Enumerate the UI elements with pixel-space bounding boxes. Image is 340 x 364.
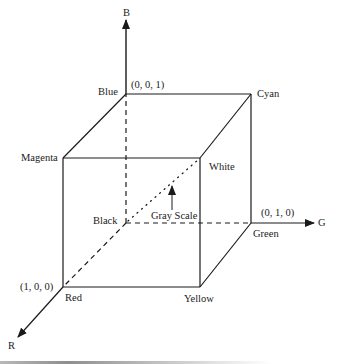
vertex-label-magenta: Magenta (21, 153, 58, 164)
coord-label-red: (1, 0, 0) (20, 282, 53, 293)
vertex-label-cyan: Cyan (257, 89, 279, 100)
vertex-label-yellow: Yellow (184, 294, 214, 305)
b-axis-label: B (123, 8, 130, 19)
coord-label-green: (0, 1, 0) (261, 208, 294, 219)
vertex-label-blue: Blue (98, 87, 118, 98)
coord-label-blue: (0, 0, 1) (131, 80, 164, 91)
r-axis-label: R (8, 341, 15, 352)
vertex-label-green: Green (253, 229, 279, 240)
vertex-label-red: Red (65, 293, 82, 304)
vertex-label-black: Black (93, 216, 118, 227)
gray-scale-label: Gray Scale (151, 211, 197, 222)
vertex-label-white: White (209, 162, 235, 173)
r-axis (18, 287, 63, 337)
g-axis-label: G (318, 218, 326, 229)
rgb-color-cube-diagram (0, 0, 340, 364)
